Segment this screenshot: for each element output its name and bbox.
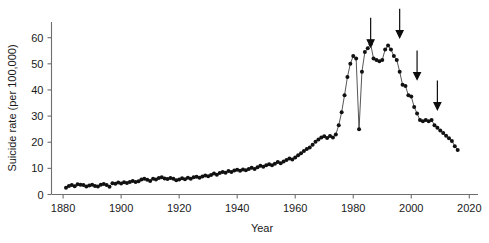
x-tick-label: 1880	[51, 202, 75, 214]
data-point	[398, 70, 402, 74]
data-point	[415, 111, 419, 115]
y-axis-title: Suicide rate (per 100,000)	[6, 44, 18, 171]
data-point	[386, 44, 390, 48]
y-tick-label: 20	[31, 136, 43, 148]
data-point	[334, 132, 338, 136]
x-tick-label: 2000	[399, 202, 423, 214]
data-point	[450, 139, 454, 143]
data-point	[403, 84, 407, 88]
data-point	[311, 143, 315, 147]
data-point	[366, 46, 370, 50]
data-point	[363, 50, 367, 54]
x-tick-label: 1960	[283, 202, 307, 214]
data-point	[340, 110, 344, 114]
data-point	[348, 62, 352, 66]
data-point	[337, 123, 341, 127]
y-tick-label: 30	[31, 110, 43, 122]
data-point	[389, 47, 393, 51]
y-tick-label: 0	[37, 189, 43, 201]
x-tick-label: 2020	[457, 202, 481, 214]
suicide-rate-line-chart: 0102030405060 Suicide rate (per 100,000)…	[0, 0, 489, 243]
chart-figure: 0102030405060 Suicide rate (per 100,000)…	[0, 0, 489, 243]
data-point	[456, 148, 460, 152]
data-point	[383, 47, 387, 51]
data-point	[412, 105, 416, 109]
data-point	[360, 70, 364, 74]
y-tick-label: 40	[31, 84, 43, 96]
data-point	[395, 58, 399, 62]
y-tick-label: 10	[31, 162, 43, 174]
x-axis-title: Year	[251, 222, 274, 234]
data-point	[108, 185, 112, 189]
y-tick-label: 50	[31, 58, 43, 70]
data-point	[430, 118, 434, 122]
data-point	[380, 58, 384, 62]
y-tick-label: 60	[31, 32, 43, 44]
data-point	[331, 136, 335, 140]
data-point	[409, 94, 413, 98]
x-tick-label: 1900	[109, 202, 133, 214]
data-point	[357, 127, 361, 131]
x-tick-label: 1940	[225, 202, 249, 214]
data-point	[392, 54, 396, 58]
x-tick-label: 1980	[341, 202, 365, 214]
data-point	[354, 57, 358, 61]
data-point	[343, 93, 347, 97]
x-tick-label: 1920	[167, 202, 191, 214]
data-point	[345, 75, 349, 79]
data-point	[453, 144, 457, 148]
